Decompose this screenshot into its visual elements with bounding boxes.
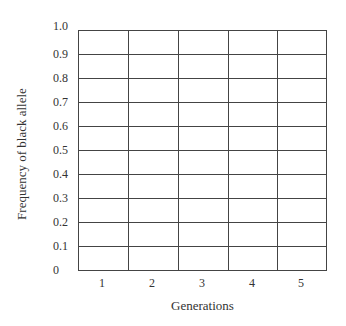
- y-tick: 0.2: [53, 216, 68, 228]
- y-axis-label: Frequency of black allele: [14, 88, 30, 220]
- gridline-0.2: [79, 222, 326, 223]
- y-tick: 1.0: [53, 20, 68, 32]
- x-tick: 3: [192, 276, 212, 291]
- y-tick: 0.7: [53, 96, 68, 108]
- gridline-0.5: [79, 150, 326, 151]
- y-tick: 0.4: [53, 168, 68, 180]
- y-tick: 0.6: [53, 120, 68, 132]
- gridline-0.3: [79, 198, 326, 199]
- y-tick: 0: [53, 264, 59, 276]
- x-axis-label: Generations: [78, 298, 327, 314]
- gridline-0.9: [79, 54, 326, 55]
- gridline-0.1: [79, 246, 326, 247]
- gridline-x3: [228, 31, 229, 270]
- plot-area: [78, 30, 327, 271]
- x-tick: 4: [242, 276, 262, 291]
- gridline-0.4: [79, 174, 326, 175]
- x-tick: 2: [142, 276, 162, 291]
- y-tick: 0.9: [53, 48, 68, 60]
- gridline-x4: [277, 31, 278, 270]
- gridline-x2: [178, 31, 179, 270]
- y-tick: 0.5: [53, 144, 68, 156]
- gridline-0.6: [79, 126, 326, 127]
- y-tick: 0.1: [53, 240, 68, 252]
- y-tick: 0.3: [53, 192, 68, 204]
- y-tick: 0.8: [53, 72, 68, 84]
- gridline-0.8: [79, 78, 326, 79]
- gridline-x1: [128, 31, 129, 270]
- x-tick: 1: [92, 276, 112, 291]
- gridline-0.7: [79, 102, 326, 103]
- x-tick: 5: [291, 276, 311, 291]
